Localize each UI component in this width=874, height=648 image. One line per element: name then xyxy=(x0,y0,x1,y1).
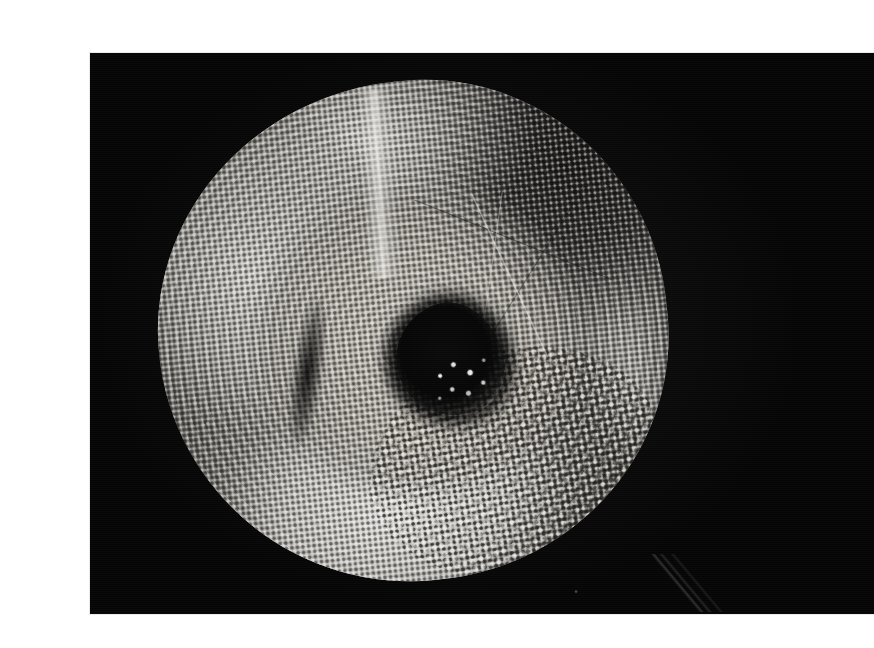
vessel-body xyxy=(133,56,692,607)
photograph-plate: Black-and-white halftone photograph of a… xyxy=(90,53,874,614)
vessel-object xyxy=(158,81,668,581)
plate-alt-text: Black-and-white halftone photograph of a… xyxy=(90,53,91,54)
